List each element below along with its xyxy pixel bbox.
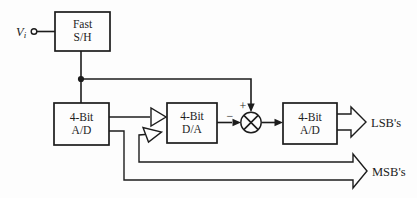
adc-coarse-label-line1: 4-Bit: [70, 111, 94, 123]
lsb-bus-arrow: [337, 107, 366, 137]
diagram-root: Vi Fast S/H 4-Bit A/D 4-Bit D/A − +: [0, 0, 417, 198]
fast-sh-label-line1: Fast: [73, 18, 93, 30]
arrowhead-into-summer-left: [233, 119, 242, 126]
msb-output-label: MSB's: [372, 165, 406, 179]
adc-fine-label-line1: 4-Bit: [298, 111, 322, 123]
summer-minus-sign: −: [227, 109, 234, 123]
summer-plus-sign: +: [240, 99, 247, 113]
dac-label-line2: D/A: [182, 123, 203, 135]
adc-coarse-label-line2: A/D: [72, 124, 92, 136]
block-diagram-canvas: Vi Fast S/H 4-Bit A/D 4-Bit D/A − +: [0, 0, 417, 198]
input-voltage-subscript: i: [24, 30, 27, 40]
arrowhead-into-summer-top: [247, 104, 254, 113]
arrowhead-into-adc2: [275, 119, 284, 126]
fast-sh-label-line2: S/H: [74, 31, 92, 43]
adc-fine-label-line2: A/D: [300, 124, 320, 136]
dac-label-line1: 4-Bit: [180, 110, 204, 122]
input-terminal-icon: [31, 29, 37, 35]
bus-arrowhead-branch-into-dac: [143, 128, 162, 143]
input-voltage-label: Vi: [16, 25, 27, 41]
bus-arrowhead-into-dac: [151, 108, 166, 126]
lsb-output-label: LSB's: [371, 116, 401, 130]
